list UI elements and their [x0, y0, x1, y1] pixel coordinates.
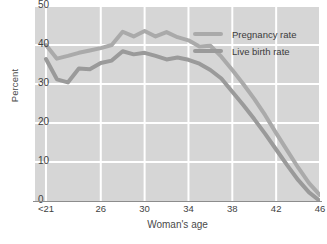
x-tick-label: <21 [26, 203, 66, 214]
y-tick-label: 10 [38, 155, 58, 166]
legend-label-pregnancy-rate: Pregnancy rate [232, 29, 296, 40]
y-tick-label: 50 [38, 0, 58, 10]
x-axis-line [33, 201, 322, 202]
chart-container: Percent 01020304050 <21263034384246 Woma… [0, 0, 327, 244]
y-tick-label: 20 [38, 116, 58, 127]
y-tick-label: 40 [38, 38, 58, 49]
legend-item-live-birth-rate: Live birth rate [193, 44, 296, 58]
x-tick-label: 30 [125, 203, 165, 214]
x-tick-label: 42 [256, 203, 296, 214]
series-line-live-birth-rate [46, 51, 320, 201]
legend-swatch-live-birth-rate [193, 49, 223, 54]
x-tick-label: 26 [81, 203, 121, 214]
y-axis-title: Percent [9, 56, 20, 116]
x-tick-label: 46 [300, 203, 327, 214]
y-tick-label: 30 [38, 77, 58, 88]
x-tick-label: 34 [168, 203, 208, 214]
x-axis-title: Woman's age [35, 219, 320, 230]
legend-label-live-birth-rate: Live birth rate [232, 46, 290, 57]
legend-swatch-pregnancy-rate [193, 32, 223, 37]
legend-item-pregnancy-rate: Pregnancy rate [193, 27, 296, 41]
x-tick-label: 38 [212, 203, 252, 214]
chart-legend: Pregnancy rate Live birth rate [193, 27, 296, 61]
